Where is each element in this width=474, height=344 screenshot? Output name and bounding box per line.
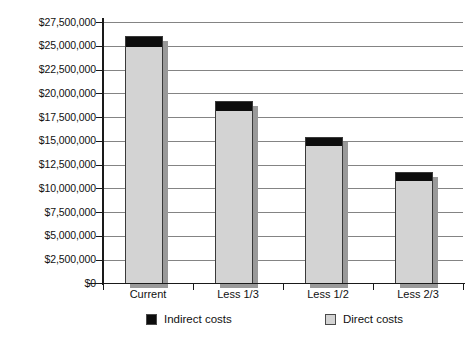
bar-less-1-2 [305, 137, 343, 283]
legend-label-direct: Direct costs [343, 313, 403, 325]
legend-swatch-direct-icon [325, 314, 336, 325]
y-tick-label: $10,000,000 [39, 182, 96, 194]
y-tick-label: $5,000,000 [44, 229, 96, 241]
bar-less-2-3 [395, 172, 433, 283]
plot-area [103, 22, 463, 283]
y-tick-label: $27,500,000 [39, 16, 96, 28]
chart-legend: Indirect costs Direct costs [0, 313, 474, 335]
x-axis-line [88, 283, 465, 284]
bar-segment-direct [216, 111, 252, 284]
y-tick-label: $7,500,000 [44, 206, 96, 218]
bar-segment-direct [126, 47, 162, 285]
bar-segment-indirect [306, 138, 342, 146]
y-tick-label: $17,500,000 [39, 111, 96, 123]
gridline [103, 22, 463, 23]
legend-swatch-indirect-icon [146, 314, 157, 325]
legend-item-indirect-costs: Indirect costs [146, 313, 232, 325]
y-tick-label: $22,500,000 [39, 63, 96, 75]
x-tick-label-less-2-3: Less 2/3 [373, 288, 463, 300]
bar-segment-indirect [396, 173, 432, 181]
bar-current [125, 36, 163, 283]
y-tick-label: $15,000,000 [39, 134, 96, 146]
bar-segment-indirect [216, 102, 252, 111]
y-tick-label: $20,000,000 [39, 87, 96, 99]
y-tick-label: $2,500,000 [44, 253, 96, 265]
y-tick-label: $25,000,000 [39, 39, 96, 51]
legend-label-indirect: Indirect costs [164, 313, 232, 325]
bar-stack [395, 172, 433, 283]
bar-segment-indirect [126, 37, 162, 47]
bar-stack [215, 101, 253, 283]
x-tick-label-current: Current [103, 288, 193, 300]
x-tick-mark [463, 284, 464, 290]
bar-stack [305, 137, 343, 283]
x-tick-label-less-1-2: Less 1/2 [283, 288, 373, 300]
bar-segment-direct [396, 181, 432, 284]
legend-item-direct-costs: Direct costs [325, 313, 403, 325]
bar-less-1-3 [215, 101, 253, 283]
bar-stack [125, 36, 163, 283]
bar-chart: $27,500,000 $25,000,000 $22,500,000 $20,… [0, 0, 474, 344]
y-axis-tick-labels: $27,500,000 $25,000,000 $22,500,000 $20,… [0, 0, 96, 344]
y-tick-label: $12,500,000 [39, 158, 96, 170]
bar-segment-direct [306, 146, 342, 284]
x-tick-label-less-1-3: Less 1/3 [193, 288, 283, 300]
y-axis-line [102, 18, 104, 285]
